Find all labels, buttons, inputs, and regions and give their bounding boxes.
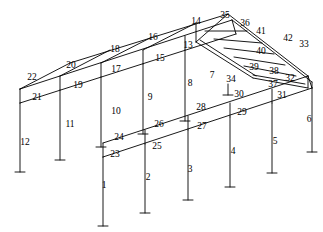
member-label-21: 21 <box>32 93 42 103</box>
member-label-7: 7 <box>210 71 215 81</box>
member-label-6: 6 <box>307 115 312 125</box>
member-label-2: 2 <box>146 173 151 183</box>
member-label-19: 19 <box>73 81 83 91</box>
member-label-31: 31 <box>277 91 287 101</box>
member-label-14: 14 <box>191 17 201 27</box>
member-label-29: 29 <box>237 108 247 118</box>
member-label-10: 10 <box>111 107 121 117</box>
member-label-41: 41 <box>256 27 266 37</box>
member-label-23: 23 <box>110 150 120 160</box>
member-label-37: 37 <box>268 80 278 90</box>
member-label-28: 28 <box>196 103 206 113</box>
member-label-12: 12 <box>20 138 30 148</box>
member-label-35: 35 <box>220 11 230 21</box>
member-label-38: 38 <box>269 67 279 77</box>
member-label-8: 8 <box>188 79 193 89</box>
member-label-36: 36 <box>240 19 250 29</box>
member-label-15: 15 <box>155 54 165 64</box>
member-label-13: 13 <box>183 41 193 51</box>
member-label-40: 40 <box>256 47 266 57</box>
member-label-11: 11 <box>65 120 74 130</box>
member-label-17: 17 <box>111 65 121 75</box>
back-upper-beam <box>20 20 232 89</box>
member-label-5: 5 <box>273 137 278 147</box>
back-eave-beam <box>20 34 236 103</box>
member-label-4: 4 <box>231 147 236 157</box>
member-label-34: 34 <box>226 75 236 85</box>
frame-drawing <box>0 0 323 232</box>
hip-rafter-7b <box>200 40 256 76</box>
member-label-30: 30 <box>234 90 244 100</box>
member-label-25: 25 <box>152 142 162 152</box>
member-label-32: 32 <box>285 74 295 84</box>
member-label-16: 16 <box>148 33 158 43</box>
member-label-27: 27 <box>197 122 207 132</box>
member-label-9: 9 <box>148 93 153 103</box>
figure-canvas: 1 2 3 4 5 6 7 8 9 10 11 12 13 14 15 16 1… <box>0 0 323 232</box>
member-label-1: 1 <box>102 181 107 191</box>
member-label-39: 39 <box>249 63 259 73</box>
member-label-24: 24 <box>114 133 124 143</box>
member-label-18: 18 <box>110 45 120 55</box>
member-label-22: 22 <box>27 73 37 83</box>
hip-purlin-3 <box>224 48 274 54</box>
member-label-20: 20 <box>66 61 76 71</box>
member-label-42: 42 <box>283 34 293 44</box>
hip-rafter-7 <box>196 42 253 78</box>
member-label-33: 33 <box>299 40 309 50</box>
member-label-26: 26 <box>154 120 164 130</box>
hip-purlin-2 <box>214 39 262 43</box>
member-label-3: 3 <box>188 165 193 175</box>
rafter-b3 <box>101 37 152 63</box>
hip-purlin-4 <box>234 57 285 65</box>
